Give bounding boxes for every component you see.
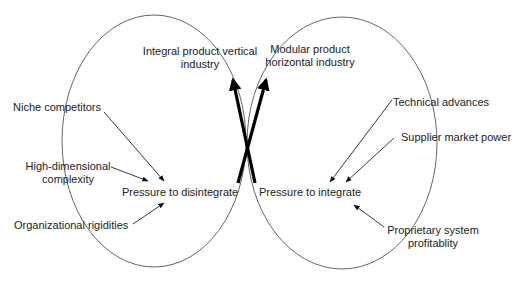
label-high-dimensional-line1: High-dimensional	[22, 160, 114, 173]
arrow-highdim-to-disintegrate	[111, 167, 148, 181]
label-organizational-rigidities: Organizational rigidities	[14, 219, 128, 232]
label-integral-line1: Integral product vertical	[140, 45, 260, 58]
arrow-org-to-disintegrate	[133, 203, 164, 224]
label-supplier-market-power: Supplier market power	[401, 131, 511, 144]
label-high-dimensional-complexity: High-dimensional complexity	[22, 160, 114, 186]
label-modular-line2: horizontal industry	[262, 56, 358, 69]
label-high-dimensional-line2: complexity	[22, 173, 114, 186]
label-niche-competitors: Niche competitors	[13, 101, 101, 114]
label-modular-line1: Modular product	[262, 43, 358, 56]
label-proprietary-system-profitability: Proprietary system profitablity	[385, 224, 481, 250]
arrow-supplier-to-integrate	[346, 138, 394, 182]
label-integral-line2: industry	[140, 58, 260, 71]
label-pressure-to-disintegrate: Pressure to disintegrate	[122, 186, 238, 199]
label-pressure-to-integrate: Pressure to integrate	[259, 186, 361, 199]
figure-canvas: Niche competitors High-dimensional compl…	[0, 0, 519, 281]
label-integral-product-vertical-industry: Integral product vertical industry	[140, 45, 260, 71]
label-proprietary-line2: profitablity	[385, 237, 481, 250]
figure-caption-cropped	[88, 275, 218, 281]
arrow-proprietary-to-integrate	[354, 205, 384, 227]
label-modular-product-horizontal-industry: Modular product horizontal industry	[262, 43, 358, 69]
label-proprietary-line1: Proprietary system	[385, 224, 481, 237]
label-technical-advances: Technical advances	[393, 96, 489, 109]
arrow-tech-to-integrate	[330, 100, 392, 182]
